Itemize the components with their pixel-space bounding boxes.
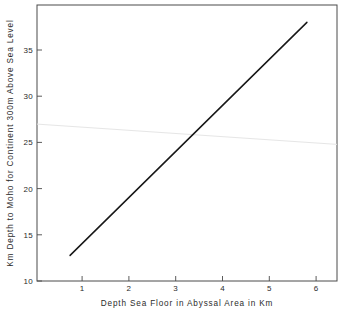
x-tick-label-3: 3	[173, 284, 178, 293]
x-tick-label-5: 5	[267, 284, 272, 293]
x-tick-label-4: 4	[220, 284, 225, 293]
chart-figure: 10 15 20 25 30 35 1 2 3 4 5 6 Depth Sea …	[0, 0, 347, 316]
x-tick-label-1: 1	[80, 284, 85, 293]
y-tick-label-30: 30	[24, 92, 34, 101]
y-tick-label-20: 20	[24, 185, 34, 194]
line-chart: 10 15 20 25 30 35 1 2 3 4 5 6 Depth Sea …	[0, 0, 347, 316]
x-tick-label-2: 2	[127, 284, 132, 293]
y-tick-label-25: 25	[24, 138, 34, 147]
y-axis-title: Km Depth to Moho for Continent 300m Abov…	[6, 19, 15, 266]
x-axis-title: Depth Sea Floor in Abyssal Area in Km	[101, 299, 274, 308]
y-tick-label-15: 15	[24, 231, 34, 240]
x-tick-label-6: 6	[314, 284, 319, 293]
y-tick-label-35: 35	[24, 46, 34, 55]
chart-background	[0, 0, 347, 316]
y-tick-label-10: 10	[24, 277, 34, 286]
